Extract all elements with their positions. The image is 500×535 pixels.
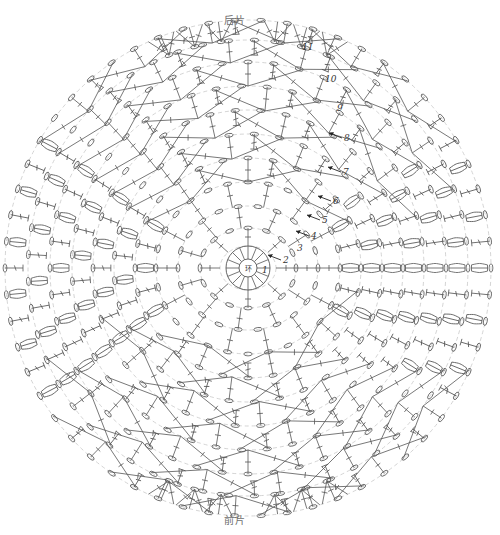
treble-crochet-symbol — [172, 78, 180, 100]
center-spoke — [240, 248, 245, 260]
puff-stitch-symbol — [406, 263, 422, 272]
treble-crochet-symbol — [318, 265, 340, 271]
puff-stitch-symbol — [53, 263, 69, 272]
treble-crochet-symbol — [172, 436, 180, 458]
treble-crochet-symbol — [345, 397, 373, 448]
treble-crochet-symbol — [374, 402, 398, 454]
puff-stitch-symbol — [465, 211, 482, 223]
treble-crochet-symbol — [268, 352, 274, 375]
treble-crochet-symbol — [158, 335, 208, 346]
treble-crochet-symbol — [245, 228, 251, 246]
treble-crochet-symbol — [329, 113, 340, 133]
treble-crochet-symbol — [168, 32, 174, 55]
puff-stitch-symbol — [97, 286, 114, 298]
puff-stitch-symbol — [31, 276, 48, 286]
treble-crochet-symbol — [382, 61, 408, 111]
double-crochet-symbol — [114, 252, 133, 261]
treble-crochet-symbol — [301, 489, 320, 505]
puff-stitch-symbol — [20, 185, 38, 198]
puff-stitch-symbol — [360, 239, 378, 251]
treble-crochet-symbol — [202, 470, 208, 492]
treble-crochet-symbol — [301, 489, 307, 508]
puff-stitch-symbol — [385, 263, 401, 272]
treble-crochet-symbol — [232, 138, 282, 159]
double-crochet-symbol — [118, 297, 137, 309]
chain-stitch-symbol — [289, 311, 298, 319]
puff-stitch-symbol — [343, 194, 361, 211]
treble-crochet-symbol — [181, 251, 202, 257]
double-crochet-symbol — [26, 362, 45, 375]
treble-crochet-symbol — [277, 472, 333, 479]
round-number-label-1: 1 — [262, 265, 268, 275]
puff-stitch-symbol — [77, 163, 95, 179]
double-crochet-symbol — [471, 290, 490, 298]
treble-crochet-symbol — [194, 70, 248, 86]
puff-stitch-symbol — [39, 325, 57, 338]
center-spoke — [251, 276, 256, 288]
double-crochet-symbol — [127, 204, 146, 219]
treble-crochet-symbol — [91, 442, 106, 457]
center-spoke — [228, 271, 240, 276]
chain-stitch-symbol — [312, 246, 318, 255]
puff-stitch-symbol — [442, 313, 460, 326]
round-number-label-8: 8 — [344, 133, 350, 143]
treble-crochet-symbol — [315, 430, 370, 436]
treble-crochet-symbol — [287, 421, 293, 444]
double-crochet-symbol — [367, 190, 386, 205]
chain-stitch-symbol — [43, 171, 50, 180]
chain-stitch-symbol — [205, 418, 214, 424]
treble-crochet-symbol — [214, 90, 265, 111]
puff-stitch-symbol — [112, 329, 130, 345]
treble-crochet-symbol — [248, 170, 299, 182]
puff-stitch-symbol — [376, 213, 394, 227]
treble-crochet-symbol — [403, 406, 423, 459]
double-crochet-symbol — [355, 215, 374, 229]
chain-stitch-symbol — [391, 212, 397, 221]
treble-crochet-symbol — [174, 141, 207, 185]
double-crochet-symbol — [5, 265, 23, 272]
treble-crochet-symbol — [372, 139, 420, 167]
treble-crochet-symbol — [215, 423, 221, 447]
treble-crochet-symbol — [181, 279, 202, 285]
treble-crochet-symbol — [210, 115, 216, 138]
treble-crochet-symbol — [189, 489, 195, 508]
pointer-arrow-2 — [268, 254, 281, 260]
treble-crochet-symbol — [296, 265, 318, 271]
puff-stitch-symbol — [401, 163, 419, 179]
treble-crochet-symbol — [197, 170, 248, 182]
treble-crochet-symbol — [268, 349, 320, 355]
treble-crochet-symbol — [227, 377, 233, 401]
treble-crochet-symbol — [107, 377, 158, 396]
puff-stitch-symbol — [146, 303, 164, 319]
chain-stitch-symbol — [80, 198, 86, 207]
chain-stitch-symbol — [139, 181, 147, 190]
treble-crochet-symbol — [232, 377, 282, 398]
treble-crochet-symbol — [181, 63, 225, 99]
puff-stitch-symbol — [94, 343, 112, 359]
chain-stitch-symbol — [69, 125, 77, 134]
treble-crochet-symbol — [408, 97, 425, 111]
treble-crochet-symbol — [191, 316, 205, 335]
chain-stitch-symbol — [401, 75, 410, 83]
treble-crochet-symbol — [75, 369, 123, 397]
double-crochet-symbol — [390, 334, 409, 348]
treble-crochet-symbol — [248, 450, 302, 466]
puff-stitch-symbol — [397, 310, 415, 324]
puff-stitch-symbol — [343, 263, 359, 272]
puff-stitch-symbol — [84, 200, 102, 215]
treble-crochet-symbol — [372, 122, 388, 139]
round-number-label-9: 9 — [337, 103, 343, 113]
double-crochet-symbol — [344, 327, 363, 343]
treble-crochet-symbol — [160, 167, 174, 185]
treble-crochet-symbol — [227, 328, 233, 351]
puff-stitch-symbol — [138, 263, 154, 272]
chain-stitch-symbol — [185, 230, 193, 239]
chart-canvas: 环 — [0, 0, 500, 535]
double-crochet-symbol — [100, 214, 119, 227]
puff-stitch-symbol — [117, 274, 134, 285]
treble-crochet-symbol — [131, 442, 143, 461]
treble-crochet-symbol — [245, 62, 251, 86]
treble-crochet-symbol — [345, 88, 373, 139]
puff-stitch-symbol — [472, 263, 488, 272]
treble-crochet-symbol — [160, 351, 174, 369]
